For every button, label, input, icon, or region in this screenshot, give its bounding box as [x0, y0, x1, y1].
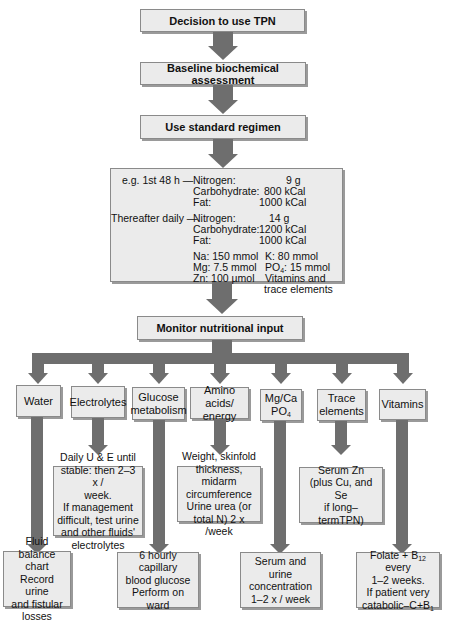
- category-label: Trace: [328, 392, 356, 405]
- result-line: and other fluids': [61, 526, 135, 539]
- monitor-box: Monitor nutritional input: [137, 316, 303, 340]
- category-label: Glucose: [138, 391, 178, 404]
- result-line: circumference: [186, 488, 252, 501]
- result-line: 1–2 weeks.: [371, 574, 424, 587]
- down-arrow-icon: [88, 373, 108, 384]
- amino-monitoring-box: Weight, skinfold thickness, midarm circu…: [177, 466, 261, 522]
- daily-fat-name: Fat:: [193, 235, 211, 247]
- result-line: week.: [84, 489, 111, 502]
- result-line: Fluid balance: [7, 535, 67, 560]
- category-label: metabolism: [130, 404, 186, 417]
- result-line: Weight, skinfold: [182, 450, 256, 463]
- daily-label: Thereafter daily —: [111, 213, 197, 225]
- first48-label: e.g. 1st 48 h —: [122, 175, 193, 187]
- result-line: 1–2 x / week: [251, 593, 310, 606]
- result-line: stable: then 2–3 x /: [57, 464, 139, 489]
- category-label: Vitamins: [382, 398, 424, 411]
- result-line: concentration: [249, 580, 312, 593]
- category-label: Electrolytes: [70, 396, 127, 409]
- down-arrow-icon: [28, 373, 48, 384]
- category-label: Water: [24, 395, 53, 408]
- result-line: Perform on ward: [121, 586, 195, 611]
- category-water: Water: [16, 385, 61, 417]
- down-arrow-icon: [332, 373, 352, 384]
- glucose-monitoring-box: 6 hourly capillary blood glucose Perform…: [117, 552, 199, 608]
- down-arrow-icon: [149, 373, 169, 384]
- result-line: Record urine: [7, 573, 67, 598]
- category-label: elements: [319, 405, 364, 418]
- daily-fat-value: 1000 kCal: [259, 235, 306, 247]
- arrow-shaft: [274, 421, 286, 545]
- down-arrow-icon: [208, 46, 238, 60]
- arrow-shaft: [214, 419, 226, 446]
- decision-box: Decision to use TPN: [140, 9, 305, 32]
- horizontal-connector-bar: [32, 353, 409, 364]
- result-line: Folate + B12 every: [360, 549, 436, 574]
- monitor-label: Monitor nutritional input: [156, 322, 283, 334]
- category-label: PO4: [271, 405, 291, 418]
- result-line: if long–termTPN): [303, 501, 379, 526]
- result-line: electrolytes: [71, 539, 124, 552]
- arrow-shaft: [212, 282, 232, 300]
- trace-monitoring-box: Serum Zn (plus Cu, and Se if long–termTP…: [299, 467, 383, 523]
- mgca-monitoring-box: Serum and urine concentration 1–2 x / we…: [240, 552, 321, 608]
- result-line: catabolic–C+B1: [362, 599, 434, 612]
- regimen-title-label: Use standard regimen: [165, 121, 281, 133]
- category-glucose: Glucose metabolism: [132, 387, 185, 420]
- category-electrolytes: Electrolytes: [71, 386, 125, 418]
- down-arrow-icon: [208, 100, 238, 114]
- result-line: Urine urea (or: [187, 500, 252, 513]
- down-arrow-icon: [331, 445, 351, 455]
- vitamins-monitoring-box: Folate + B12 every 1–2 weeks. If patient…: [356, 552, 440, 608]
- category-trace-elements: Trace elements: [317, 389, 366, 421]
- arrow-shaft: [335, 421, 347, 446]
- result-line: chart: [25, 560, 48, 573]
- arrow-shaft: [92, 418, 104, 446]
- arrow-shaft: [396, 420, 408, 545]
- category-mg-ca-po4: Mg/Ca PO4: [260, 389, 302, 421]
- arrow-shaft: [213, 85, 233, 101]
- water-monitoring-box: Fluid balance chart Record urine and fis…: [3, 551, 71, 607]
- first48-fat-value: 1000 kCal: [259, 197, 306, 209]
- result-line: Serum Zn: [318, 464, 364, 477]
- down-arrow-icon: [393, 373, 413, 384]
- result-line: 6 hourly capillary: [121, 549, 195, 574]
- category-vitamins: Vitamins: [379, 389, 426, 420]
- vitamins-line2: trace elements: [264, 283, 333, 295]
- arrow-shaft: [31, 417, 43, 545]
- first48-fat-name: Fat:: [193, 197, 211, 209]
- decision-label: Decision to use TPN: [169, 15, 275, 27]
- electrolytes-monitoring-box: Daily U & E until stable: then 2–3 x / w…: [53, 466, 143, 536]
- result-line: difficult, test urine: [57, 514, 139, 527]
- result-line: losses: [22, 610, 52, 623]
- result-line: (plus Cu, and Se: [303, 476, 379, 501]
- regimen-details-box: e.g. 1st 48 h — Nitrogen: Carbohydrate: …: [110, 168, 343, 282]
- down-arrow-icon: [206, 299, 238, 314]
- result-line: Daily U & E until: [60, 451, 136, 464]
- category-label: Amino acids/: [191, 384, 248, 410]
- down-arrow-icon: [271, 373, 291, 384]
- baseline-box: Baseline biochemical assessment: [140, 62, 306, 85]
- result-line: total N) 2 x /week: [181, 513, 257, 538]
- baseline-label: Baseline biochemical assessment: [141, 62, 305, 86]
- arrow-shaft: [213, 139, 233, 155]
- result-line: blood glucose: [126, 574, 191, 587]
- arrow-shaft: [213, 32, 233, 46]
- result-line: and fistular: [11, 598, 62, 611]
- category-label: Mg/Ca: [265, 392, 297, 405]
- arrow-shaft: [153, 420, 165, 545]
- result-line: Serum and urine: [244, 555, 317, 580]
- category-amino-acids: Amino acids/ energy: [190, 387, 249, 419]
- result-line: thickness, midarm: [181, 463, 257, 488]
- regimen-title-box: Use standard regimen: [140, 115, 306, 139]
- down-arrow-icon: [210, 373, 230, 384]
- result-line: If patient very: [366, 586, 429, 599]
- result-line: If management: [63, 501, 133, 514]
- down-arrow-icon: [208, 154, 238, 168]
